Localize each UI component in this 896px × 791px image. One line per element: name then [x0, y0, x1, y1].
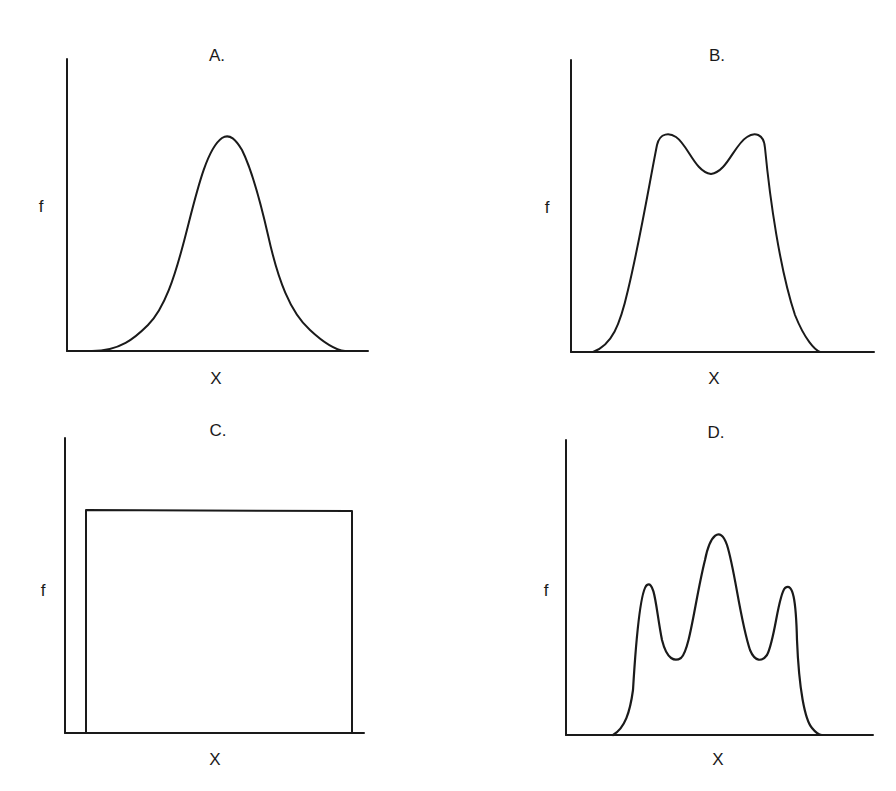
panel-a-y-label: f — [39, 198, 44, 215]
panel-a-x-label: X — [210, 370, 221, 387]
panel-c-x-label: X — [209, 751, 220, 768]
panel-c-title: C. — [210, 422, 227, 439]
panel-c-plot — [65, 438, 364, 733]
panel-b-x-label: X — [708, 370, 719, 387]
panel-a-title: A. — [209, 47, 225, 64]
figure-canvas — [0, 0, 896, 791]
panel-c-rectangle — [86, 510, 352, 733]
panel-a-plot — [67, 59, 368, 351]
panel-d-x-label: X — [712, 751, 723, 768]
panel-d-y-label: f — [544, 582, 549, 599]
panel-d-title: D. — [708, 424, 725, 441]
panel-d-curve — [613, 534, 822, 735]
panel-d-plot — [566, 440, 873, 735]
panel-b-title: B. — [709, 47, 725, 64]
panel-b-plot — [571, 60, 874, 352]
panel-b-y-label: f — [545, 199, 550, 216]
panel-c-y-label: f — [41, 582, 46, 599]
panel-a-curve — [92, 136, 345, 351]
panel-b-curve — [593, 134, 820, 352]
